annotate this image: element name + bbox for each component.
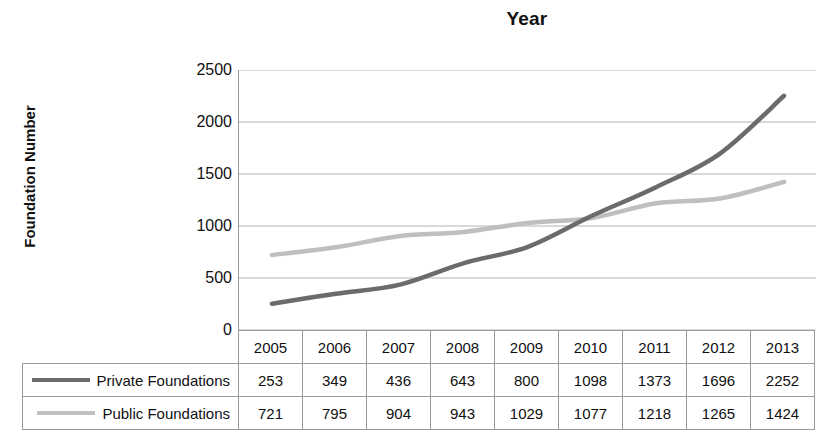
- table-year-header: 2013: [751, 331, 815, 364]
- y-tick-label: 2000: [162, 114, 232, 130]
- legend-entry: Private Foundations: [29, 364, 230, 396]
- y-tick-label: 2500: [162, 62, 232, 78]
- y-tick-label: 1000: [162, 218, 232, 234]
- table-value-cell: 943: [431, 397, 495, 430]
- legend-label: Private Foundations: [97, 372, 230, 389]
- table-value-cell: 1098: [559, 364, 623, 397]
- table-value-cell: 1077: [559, 397, 623, 430]
- legend-line-swatch-icon: [32, 378, 90, 382]
- table-year-header: 2010: [559, 331, 623, 364]
- plot-svg: [238, 70, 816, 330]
- series-line-public-foundations: [272, 182, 784, 255]
- table-year-header: 2007: [367, 331, 431, 364]
- table-year-header: 2012: [687, 331, 751, 364]
- legend-line-swatch-icon: [37, 411, 95, 415]
- table-value-cell: 1424: [751, 397, 815, 430]
- table-value-cell: 1696: [687, 364, 751, 397]
- y-tick-label: 1500: [162, 166, 232, 182]
- table-year-header: 2006: [303, 331, 367, 364]
- legend-label: Public Foundations: [102, 405, 230, 422]
- table-value-cell: 904: [367, 397, 431, 430]
- chart-title: Year: [238, 8, 816, 30]
- table-header-row: 200520062007200820092010201120122013: [23, 331, 815, 364]
- legend-cell[interactable]: Private Foundations: [23, 364, 239, 397]
- table-value-cell: 1218: [623, 397, 687, 430]
- table-value-cell: 800: [495, 364, 559, 397]
- y-axis-label: Foundation Number: [21, 62, 38, 292]
- plot-area: [238, 70, 816, 330]
- y-tick-label: 500: [162, 270, 232, 286]
- table-value-cell: 795: [303, 397, 367, 430]
- table-value-cell: 253: [239, 364, 303, 397]
- table-year-header: 2005: [239, 331, 303, 364]
- table-corner-cell: [23, 331, 239, 364]
- table-year-header: 2009: [495, 331, 559, 364]
- table-value-cell: 2252: [751, 364, 815, 397]
- table-value-cell: 1265: [687, 397, 751, 430]
- table-row: Public Foundations7217959049431029107712…: [23, 397, 815, 430]
- legend-entry: Public Foundations: [29, 397, 230, 429]
- table-year-header: 2008: [431, 331, 495, 364]
- table-year-header: 2011: [623, 331, 687, 364]
- table-value-cell: 349: [303, 364, 367, 397]
- table-value-cell: 1029: [495, 397, 559, 430]
- data-table: 200520062007200820092010201120122013Priv…: [22, 330, 815, 430]
- chart-figure: Year Foundation Number 05001000150020002…: [0, 0, 829, 447]
- legend-cell[interactable]: Public Foundations: [23, 397, 239, 430]
- table-value-cell: 643: [431, 364, 495, 397]
- table-value-cell: 721: [239, 397, 303, 430]
- table-row: Private Foundations253349436643800109813…: [23, 364, 815, 397]
- table-value-cell: 436: [367, 364, 431, 397]
- table-value-cell: 1373: [623, 364, 687, 397]
